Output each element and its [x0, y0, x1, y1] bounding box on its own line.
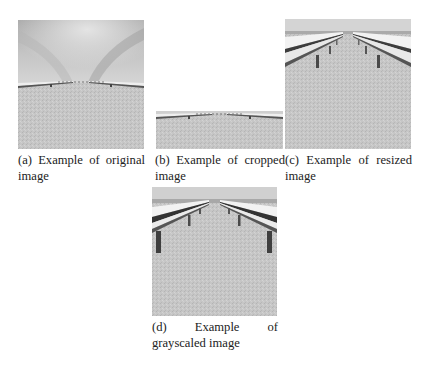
caption-a-line2: image: [18, 169, 145, 185]
caption-b-line2: image: [155, 169, 285, 185]
grayscaled-image: [152, 187, 277, 316]
caption-a-line1: (a) Example of original: [18, 153, 145, 169]
cropped-image: [156, 111, 283, 149]
caption-c-line2: image: [285, 169, 412, 185]
caption-c-line1: (c) Example of resized: [285, 153, 412, 169]
caption-a: (a) Example of original image: [18, 153, 145, 184]
caption-b: (b) Example of cropped image: [155, 153, 285, 184]
caption-d: (d) Example of grayscaled image: [152, 320, 278, 351]
resized-image: [285, 19, 411, 149]
caption-d-word-example: Example: [195, 320, 240, 336]
caption-d-word-of: of: [267, 320, 278, 336]
caption-b-line1: (b) Example of cropped: [155, 153, 285, 169]
caption-d-line1: (d) Example of: [152, 320, 278, 336]
caption-d-label: (d): [152, 320, 167, 336]
caption-d-line2: grayscaled image: [152, 336, 278, 352]
original-image: [18, 20, 144, 149]
caption-c: (c) Example of resized image: [285, 153, 412, 184]
